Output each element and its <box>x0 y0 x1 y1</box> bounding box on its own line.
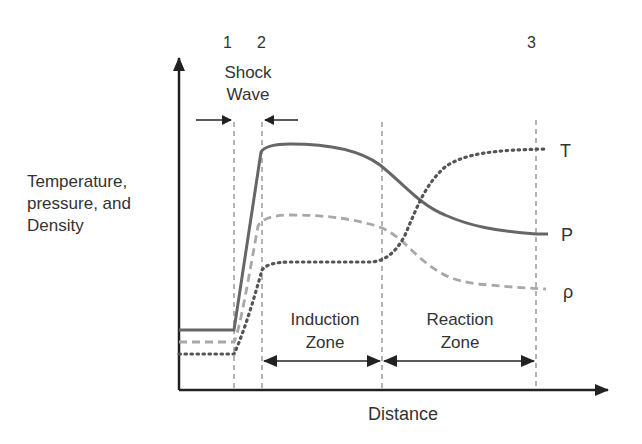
axes <box>179 58 608 390</box>
y-axis-label: Temperature, pressure, and Density <box>27 171 131 237</box>
x-axis-label: Distance <box>368 404 438 424</box>
shock-label-line-1: Shock <box>210 62 286 84</box>
series-label-P: P <box>561 225 573 245</box>
induction-line-2: Zone <box>270 331 380 354</box>
ylabel-line-2: pressure, and <box>27 193 131 215</box>
series-label-T: T <box>560 141 571 161</box>
ylabel-line-3: Density <box>27 215 131 237</box>
station-label-1: 1 <box>223 33 232 53</box>
ylabel-line-1: Temperature, <box>27 171 131 193</box>
reaction-line-1: Reaction <box>400 308 520 331</box>
shock-wave-label: Shock Wave <box>210 62 286 106</box>
induction-zone-label: Induction Zone <box>270 308 380 354</box>
station-label-2: 2 <box>257 33 266 53</box>
series-label-rho: ρ <box>563 282 573 302</box>
reaction-line-2: Zone <box>400 331 520 354</box>
reaction-zone-label: Reaction Zone <box>400 308 520 354</box>
station-label-3: 3 <box>527 33 536 53</box>
induction-line-1: Induction <box>270 308 380 331</box>
shock-label-line-2: Wave <box>210 84 286 106</box>
